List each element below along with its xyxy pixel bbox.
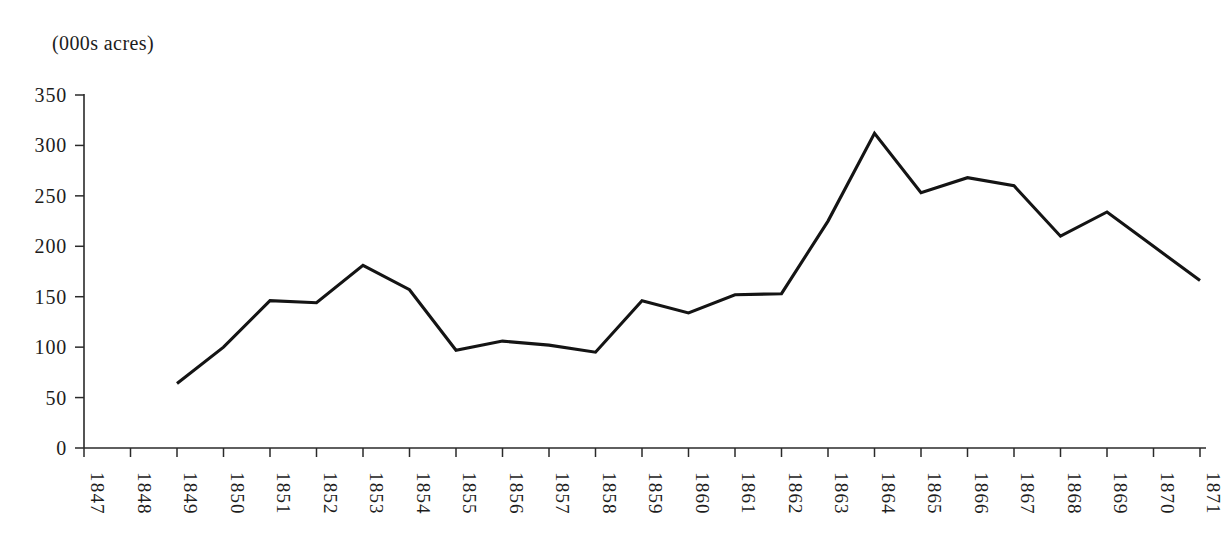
x-axis-tick-label: 1866 [971,472,992,515]
x-axis-tick-label: 1851 [273,472,294,515]
x-axis-tick-label: 1867 [1017,472,1038,515]
x-axis-tick-label: 1849 [180,472,201,515]
x-axis-tick-label: 1858 [599,472,620,515]
x-axis-tick-label: 1850 [227,472,248,515]
line-chart-plot: 050100150200250300350 184718481849185018… [0,0,1228,550]
x-axis-tick-label: 1864 [878,472,899,515]
y-axis-tick-label: 100 [35,336,67,358]
data-series-group [177,133,1200,383]
x-axis-tick-label: 1869 [1110,472,1131,515]
x-axis-tick-label: 1847 [87,472,108,515]
x-axis-tick-label: 1855 [459,472,480,515]
y-axis-tick-label: 150 [35,286,67,308]
y-axis-tick-label: 250 [35,185,67,207]
x-axis-tick-label: 1868 [1064,472,1085,515]
x-axis-tick-label: 1859 [645,472,666,515]
y-axis-tick-label: 350 [35,84,67,106]
y-axis-tick-label: 0 [56,437,67,459]
x-axis-tick-label: 1853 [366,472,387,515]
x-axis-tick-label: 1862 [785,472,806,515]
y-axis: 050100150200250300350 [35,84,84,459]
y-axis-tick-label: 300 [35,134,67,156]
x-axis-tick-label: 1863 [831,472,852,515]
y-axis-tick-label: 200 [35,235,67,257]
x-axis-tick-label: 1871 [1203,472,1224,515]
x-axis-tick-label: 1865 [924,472,945,515]
x-axis-tick-label: 1860 [692,472,713,515]
x-axis: 1847184818491850185118521853185418551856… [84,448,1224,515]
x-axis-tick-label: 1854 [413,472,434,515]
x-axis-tick-label: 1856 [506,472,527,515]
x-axis-tick-label: 1870 [1157,472,1178,515]
data-line-acreage [177,133,1200,383]
x-axis-tick-label: 1852 [320,472,341,515]
x-axis-tick-label: 1848 [134,472,155,515]
y-axis-tick-label: 50 [45,387,67,409]
chart-container: (000s acres) 050100150200250300350 18471… [0,0,1228,550]
x-axis-tick-label: 1857 [552,472,573,515]
x-axis-tick-label: 1861 [738,472,759,515]
